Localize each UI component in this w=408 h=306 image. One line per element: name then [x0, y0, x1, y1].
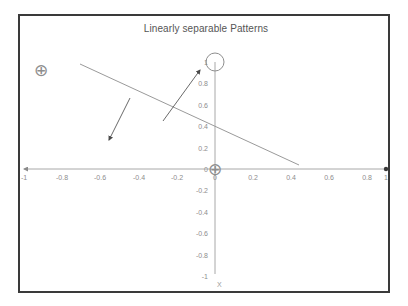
- data-point-filled-dot: [384, 167, 388, 171]
- y-tick-label: -1: [190, 273, 208, 280]
- y-tick-label: -0.4: [190, 209, 208, 216]
- normal-arrow-down: [109, 98, 130, 140]
- x-tick-label: 0.2: [248, 174, 258, 181]
- figure-frame: Linearly separable Patterns: [18, 14, 390, 293]
- x-axis-label: X: [217, 281, 222, 288]
- y-tick-label: 0.4: [190, 123, 208, 130]
- x-tick-label: 0: [213, 174, 217, 181]
- x-tick-label: -0.8: [56, 174, 68, 181]
- x-tick-label: -0.6: [94, 174, 106, 181]
- x-tick-label: 1: [384, 174, 388, 181]
- y-tick-label: -0.6: [190, 230, 208, 237]
- y-tick-label: -0.2: [190, 187, 208, 194]
- x-tick-label: -0.2: [171, 174, 183, 181]
- x-tick-label: -0.4: [133, 174, 145, 181]
- y-tick-label: -0.8: [190, 252, 208, 259]
- x-tick-label: 0.8: [362, 174, 372, 181]
- x-tick-label: -1: [21, 174, 27, 181]
- x-tick-label: 0.6: [324, 174, 334, 181]
- y-tick-label: 0.6: [190, 102, 208, 109]
- y-tick-label: 0: [190, 166, 208, 173]
- y-tick-label: 1: [190, 59, 208, 66]
- data-point-circled-plus-upper-left: ⊕: [34, 62, 48, 79]
- x-tick-label: 0.4: [286, 174, 296, 181]
- normal-arrow-up: [163, 70, 200, 121]
- top-cutoff-strip: [0, 0, 408, 8]
- screenshot-page: Linearly separable Patterns: [0, 0, 408, 306]
- y-tick-label: 0.8: [190, 80, 208, 87]
- y-tick-label: 0.2: [190, 145, 208, 152]
